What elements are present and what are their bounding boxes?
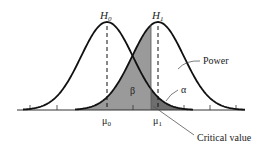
mu0-label: μ0 (102, 115, 111, 128)
beta-label: β (130, 85, 135, 96)
axis-ticks (30, 105, 236, 110)
beta-region (75, 25, 151, 110)
h1-label: H1 (151, 9, 163, 23)
power-label: Power (203, 55, 229, 66)
h0-label: H0 (99, 9, 112, 23)
critical-value-label: Critical value (197, 132, 252, 143)
alpha-label: α (181, 84, 187, 95)
alpha-pointer (166, 90, 178, 101)
mu1-label: μ1 (153, 115, 162, 128)
power-diagram: H0 H1 μ0 μ1 β α Power Critical value (0, 0, 265, 150)
